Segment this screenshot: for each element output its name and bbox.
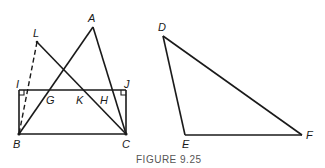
segment-ab — [19, 27, 93, 134]
point-b-dot — [17, 132, 20, 135]
label-k: K — [76, 94, 84, 106]
segment-df — [163, 36, 302, 135]
segment-de — [163, 36, 185, 135]
label-f: F — [306, 129, 314, 141]
point-c-dot — [124, 132, 127, 135]
triangle-def — [163, 36, 302, 135]
label-g: G — [46, 94, 55, 106]
point-l-dot — [36, 41, 39, 44]
label-i: I — [16, 78, 19, 90]
label-l: L — [33, 27, 39, 39]
label-a: A — [87, 12, 95, 24]
label-h: H — [100, 94, 108, 106]
label-d: D — [158, 21, 166, 33]
label-e: E — [182, 138, 190, 150]
figure-canvas: A L I J G K H B C D E F FIGURE 9.25 — [0, 0, 325, 168]
label-c: C — [122, 138, 130, 150]
figure-caption: FIGURE 9.25 — [136, 154, 202, 165]
label-j: J — [123, 78, 130, 90]
label-b: B — [13, 138, 20, 150]
